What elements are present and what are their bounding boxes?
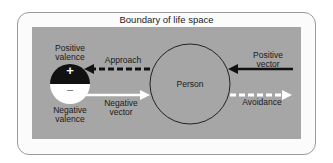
negative-symbol: – xyxy=(62,85,78,94)
positive-vector-label: Positive vector xyxy=(243,51,293,69)
positive-symbol: + xyxy=(62,66,78,75)
negative-valence-label: Negative valence xyxy=(44,106,96,124)
negative-vector-label: Negative vector xyxy=(96,99,146,117)
approach-arrow xyxy=(84,64,150,74)
positive-valence-label: Positive valence xyxy=(44,44,96,62)
person-label: Person xyxy=(165,80,215,89)
avoidance-label: Avoidance xyxy=(235,98,289,107)
approach-label: Approach xyxy=(98,56,148,65)
